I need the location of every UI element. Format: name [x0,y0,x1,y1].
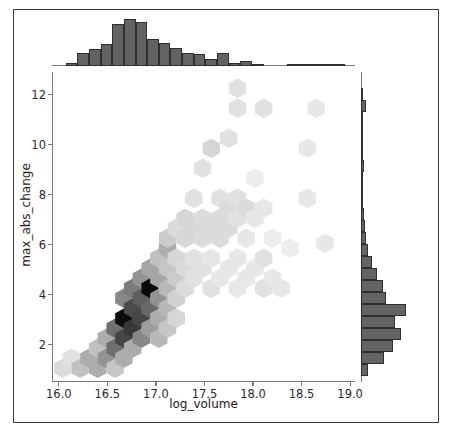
hexbin-cell [307,98,324,118]
marginal-y-bar [361,352,384,364]
marginal-y-bar [361,268,377,280]
marginal-y-bar [361,304,406,316]
marginal-x-bar [66,63,78,66]
hexbin-cell [316,233,333,253]
hexbin-cell [220,128,237,148]
x-tick-mark [301,382,302,386]
marginal-x-bar [170,48,182,66]
marginal-y-bar [361,208,364,220]
marginal-histogram-x [52,16,355,66]
y-tick-label: 8 [39,187,46,203]
x-tick-mark [155,382,156,386]
marginal-y-bar [361,220,365,232]
hexbin-layer [52,72,355,382]
hexbin-cell [299,138,316,158]
y-tick-label: 4 [39,287,46,303]
x-tick-mark [107,382,108,386]
hexbin-cell [229,78,246,98]
y-tick-label: 10 [31,137,46,153]
marginal-y-bar [361,196,363,208]
marginal-x-bar [334,64,346,66]
marginal-y-bar [361,340,393,352]
x-tick-mark [58,382,59,386]
marginal-y-bar [361,172,363,184]
marginal-y-bar [361,112,363,124]
marginal-y-bar [361,184,363,196]
marginal-x-bar [299,64,311,66]
marginal-y-bar [361,244,368,256]
marginal-x-bar [240,61,252,66]
marginal-y-bar [361,148,363,160]
marginal-y-bar [361,364,368,376]
hexbin-cell [229,98,246,118]
marginal-y-bar [361,256,372,268]
marginal-x-bar [77,53,89,66]
marginal-x-bar [287,64,299,66]
marginal-y-bar [361,88,363,100]
marginal-x-bar [252,64,264,66]
figure-canvas: 2468101216.016.517.017.518.018.519.0 log… [0,0,452,436]
marginal-x-bar [217,53,229,66]
hexbin-collection [52,72,355,382]
marginal-y-bar [361,232,366,244]
marginal-x-bar [89,49,101,66]
marginal-y-bar [361,136,363,148]
y-axis-spine [52,72,53,382]
hexbin-cell [238,228,255,248]
y-tick-label: 6 [39,237,46,253]
x-tick-mark [350,382,351,386]
x-tick-mark [204,382,205,386]
marginal-x-bar [112,24,124,66]
marginal-y-bar [361,160,364,172]
hexbin-cell [185,188,202,208]
y-tick-mark [48,244,52,245]
hexbin-cell [281,238,298,258]
marginal-x-bar [229,63,241,66]
marginal-y-bar [361,280,383,292]
y-tick-mark [48,94,52,95]
y-tick-mark [48,294,52,295]
marginal-x-bar [159,43,171,67]
marginal-y-bar [361,292,386,304]
y-tick-mark [48,194,52,195]
marginal-x-bar [136,22,148,66]
marginal-y-bar [361,100,366,112]
marginal-x-bar [194,54,206,66]
hexbin-cell [203,138,220,158]
marginal-histogram-y [361,72,409,382]
marginal-x-bar [182,53,194,66]
x-tick-mark [252,382,253,386]
x-axis-label: log_volume [52,397,355,411]
y-tick-label: 12 [31,87,46,103]
hexbin-cell [255,98,272,118]
marginal-x-bar [205,59,217,66]
marginal-x-bar [124,19,136,66]
y-tick-mark [48,344,52,345]
marginal-y-bar [361,316,395,328]
marginal-x-bar [322,64,334,66]
marginal-y-bar [361,124,363,136]
hexbin-cell [264,228,281,248]
y-tick-mark [48,144,52,145]
marginal-x-bar [147,39,159,66]
marginal-x-bar [101,44,113,66]
y-axis-label: max_abs_change [19,125,33,305]
y-tick-label: 2 [39,337,46,353]
hexbin-cell [194,158,211,178]
marginal-x-bar [310,64,322,66]
hexbin-cell [246,168,263,188]
joint-hexbin-axes: 2468101216.016.517.017.518.018.519.0 [52,72,355,382]
hexbin-cell [299,188,316,208]
marginal-y-bar [361,328,401,340]
